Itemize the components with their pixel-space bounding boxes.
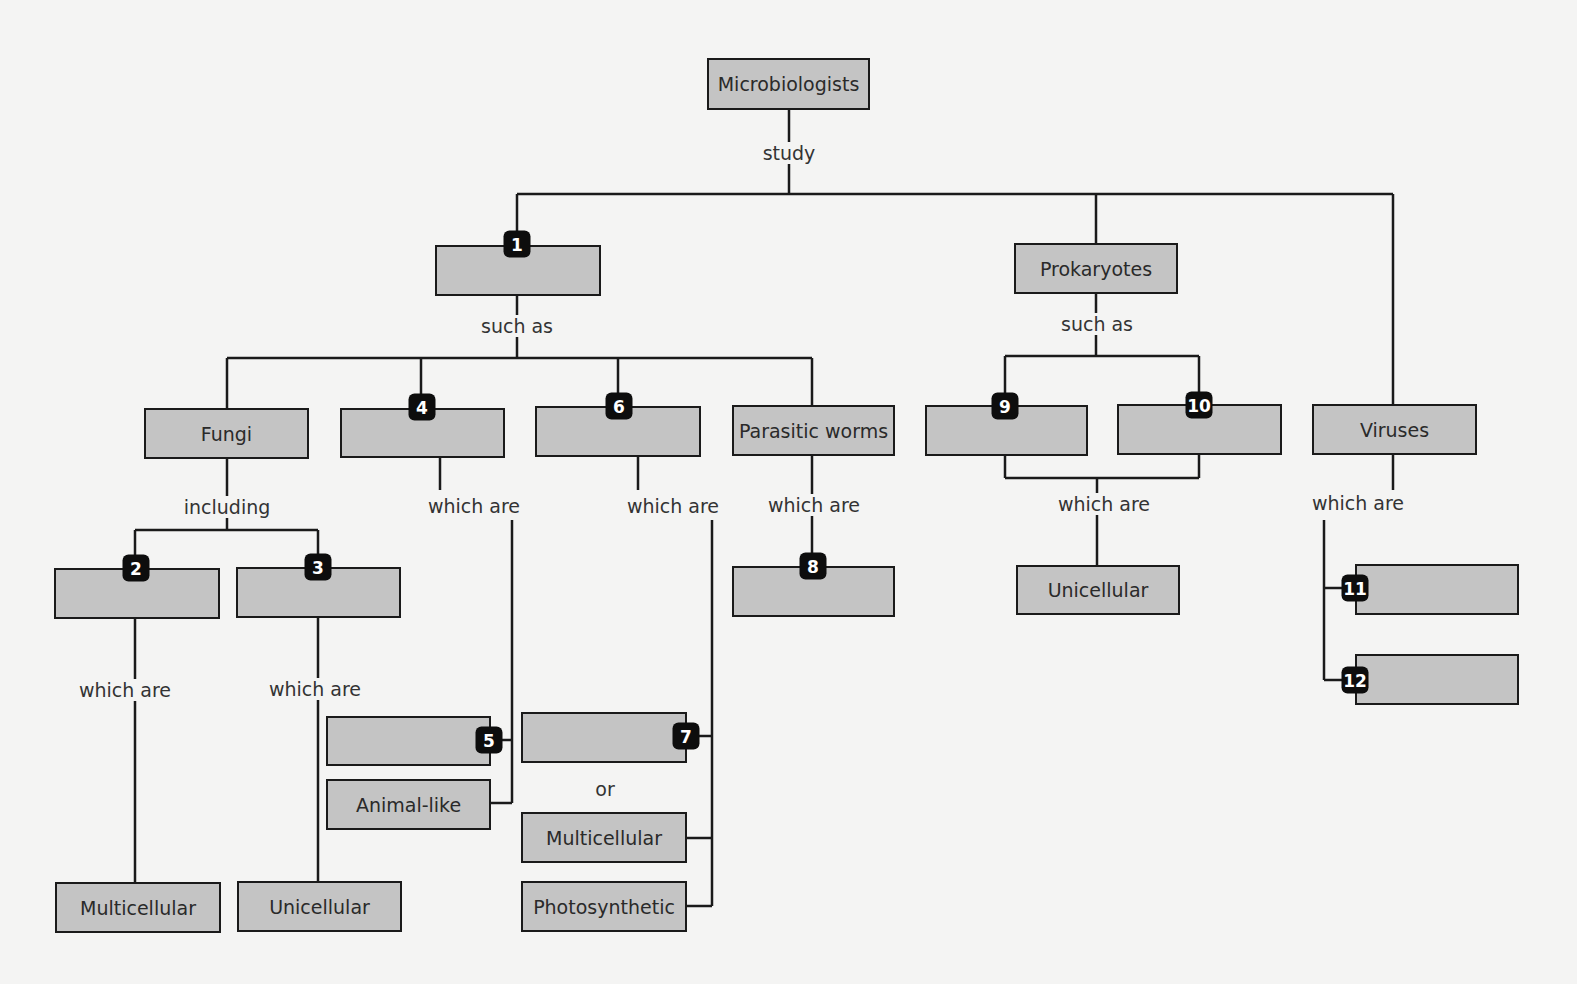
node-animal-like: Animal-like: [326, 779, 491, 830]
node-viruses: Viruses: [1312, 404, 1477, 455]
node-microbiologists: Microbiologists: [707, 58, 870, 110]
badge-7: 7: [673, 723, 700, 750]
badge-4: 4: [409, 394, 436, 421]
link-such-as-prokaryotes: such as: [1058, 313, 1136, 335]
link-study: study: [760, 142, 819, 164]
link-which-are-viruses: which are: [1309, 492, 1407, 514]
node-prokaryote-unicellular: Unicellular: [1016, 565, 1180, 615]
link-such-as: such as: [478, 315, 556, 337]
link-including: including: [181, 496, 274, 518]
node-parasitic-worms: Parasitic worms: [732, 405, 895, 456]
node-fungi-multicellular: Multicellular: [55, 882, 221, 933]
link-which-are-2: which are: [76, 679, 174, 701]
node-7-blank: [521, 712, 687, 763]
node-5-blank: [326, 716, 491, 766]
link-which-are-3: which are: [266, 678, 364, 700]
node-12-blank: [1355, 654, 1519, 705]
badge-2: 2: [123, 555, 150, 582]
link-which-are-prokaryotes: which are: [1055, 493, 1153, 515]
badge-1: 1: [504, 231, 531, 258]
badge-9: 9: [992, 393, 1019, 420]
link-which-are-6: which are: [624, 495, 722, 517]
badge-3: 3: [305, 554, 332, 581]
link-which-are-4: which are: [425, 495, 523, 517]
node-fungi: Fungi: [144, 408, 309, 459]
badge-6: 6: [606, 393, 633, 420]
badge-12: 12: [1342, 667, 1369, 694]
link-which-are-worms: which are: [765, 494, 863, 516]
node-fungi-unicellular: Unicellular: [237, 881, 402, 932]
node-multicellular: Multicellular: [521, 812, 687, 863]
node-photosynthetic: Photosynthetic: [521, 881, 687, 932]
link-or: or: [592, 778, 617, 800]
badge-5: 5: [476, 727, 503, 754]
badge-8: 8: [800, 553, 827, 580]
badge-10: 10: [1186, 392, 1213, 419]
badge-11: 11: [1342, 575, 1369, 602]
node-prokaryotes: Prokaryotes: [1014, 243, 1178, 294]
node-11-blank: [1355, 564, 1519, 615]
